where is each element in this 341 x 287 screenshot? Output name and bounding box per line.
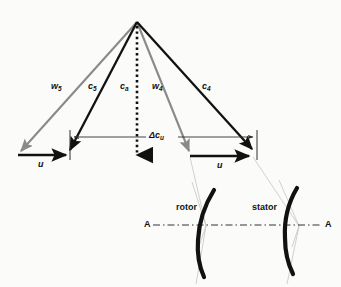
label-u-left: u bbox=[38, 160, 44, 169]
label-w4: w4 bbox=[152, 82, 163, 91]
label-delta-cu: Δcu bbox=[149, 131, 164, 140]
rotor-blade-profile bbox=[198, 190, 214, 277]
velocity-triangle-diagram bbox=[0, 0, 341, 287]
construction-lines bbox=[190, 157, 299, 284]
label-axis-a-right: A bbox=[325, 220, 332, 229]
label-stator: stator bbox=[252, 203, 277, 212]
label-c4: c4 bbox=[202, 82, 211, 91]
label-c5: c5 bbox=[88, 82, 97, 91]
label-u-right: u bbox=[217, 161, 223, 170]
label-axis-a-left: A bbox=[144, 220, 151, 229]
label-rotor: rotor bbox=[176, 203, 197, 212]
label-ca: ca bbox=[120, 82, 129, 91]
stator-blade-profile bbox=[285, 188, 297, 274]
label-w5: w5 bbox=[51, 82, 62, 91]
figure-canvas: w5 c5 ca w4 c4 Δcu u u rotor stator A A bbox=[0, 0, 341, 287]
